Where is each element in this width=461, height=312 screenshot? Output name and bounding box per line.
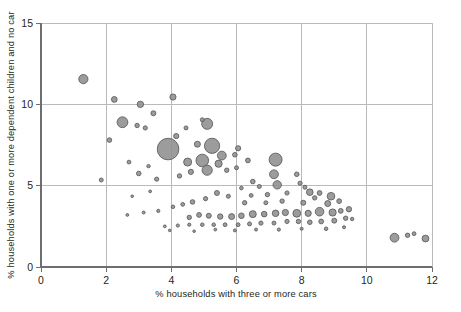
- data-point: [272, 221, 276, 225]
- data-point: [163, 225, 166, 228]
- data-point: [343, 226, 346, 229]
- data-point: [259, 221, 263, 225]
- data-point: [226, 194, 230, 198]
- data-point: [177, 174, 181, 178]
- data-point: [223, 223, 227, 227]
- data-point: [405, 233, 409, 237]
- data-point: [272, 210, 279, 217]
- bubble-chart: 024681012051015 % households with three …: [0, 0, 461, 312]
- data-point: [343, 216, 347, 220]
- x-tick-label: 8: [299, 274, 305, 286]
- data-points: [79, 75, 429, 243]
- data-point: [257, 184, 261, 188]
- data-point: [350, 217, 353, 220]
- data-point: [157, 138, 179, 160]
- data-point: [184, 158, 192, 166]
- data-point: [203, 197, 207, 201]
- data-point: [300, 227, 303, 230]
- data-point: [422, 235, 429, 242]
- data-point: [200, 223, 204, 227]
- data-point: [147, 164, 150, 167]
- x-tick-label: 4: [168, 274, 174, 286]
- data-point: [157, 209, 160, 212]
- data-point: [233, 152, 238, 157]
- data-point: [248, 222, 252, 226]
- data-point: [246, 158, 251, 163]
- data-point: [269, 153, 282, 166]
- tick-marks: [36, 23, 432, 272]
- data-point: [273, 181, 281, 189]
- data-point: [174, 133, 179, 138]
- data-point: [204, 138, 219, 153]
- data-point: [412, 232, 416, 236]
- data-point: [79, 75, 88, 84]
- data-point: [194, 141, 200, 147]
- data-point: [293, 209, 301, 217]
- y-tick-label: 0: [27, 261, 33, 273]
- y-tick-label: 5: [27, 179, 33, 191]
- chart-svg: 024681012051015 % households with three …: [0, 0, 461, 312]
- data-point: [188, 169, 193, 174]
- data-point: [264, 201, 268, 205]
- data-point: [285, 219, 289, 223]
- data-point: [200, 118, 204, 122]
- data-point: [126, 214, 129, 217]
- data-point: [181, 202, 185, 206]
- data-point: [327, 192, 335, 200]
- data-point: [337, 199, 342, 204]
- data-point: [307, 189, 314, 196]
- data-point: [390, 233, 399, 242]
- data-point: [294, 172, 299, 177]
- data-point: [332, 218, 337, 223]
- data-point: [308, 220, 313, 225]
- data-point: [170, 94, 176, 100]
- data-point: [239, 213, 245, 219]
- data-point: [249, 211, 256, 218]
- data-point: [197, 213, 202, 218]
- data-point: [184, 126, 188, 130]
- data-point: [176, 224, 179, 227]
- data-point: [319, 219, 324, 224]
- data-point: [261, 211, 267, 217]
- data-point: [324, 227, 328, 231]
- data-point: [338, 208, 343, 213]
- data-point: [313, 196, 317, 200]
- data-point: [346, 207, 351, 212]
- data-point: [155, 177, 159, 181]
- data-point: [255, 228, 258, 231]
- data-point: [225, 168, 229, 172]
- data-point: [202, 165, 212, 175]
- data-point: [298, 181, 302, 185]
- data-point: [285, 191, 289, 195]
- data-point: [236, 223, 240, 227]
- data-point: [270, 170, 279, 179]
- data-point: [206, 213, 211, 218]
- x-tick-label: 12: [426, 274, 438, 286]
- data-point: [136, 171, 141, 176]
- data-point: [301, 200, 306, 205]
- data-point: [171, 205, 175, 209]
- data-point: [117, 117, 128, 128]
- data-point: [249, 194, 253, 198]
- data-point: [149, 190, 152, 193]
- data-point: [107, 138, 112, 143]
- data-point: [277, 228, 280, 231]
- data-point: [99, 178, 103, 182]
- data-point: [325, 201, 331, 207]
- data-point: [280, 199, 284, 203]
- y-tick-label: 10: [21, 98, 33, 110]
- data-point: [240, 186, 244, 190]
- data-point: [296, 219, 300, 223]
- y-axis-title: % households with one or more dependent …: [6, 11, 16, 278]
- data-point: [265, 192, 269, 196]
- data-point: [212, 223, 216, 227]
- x-tick-label: 6: [234, 274, 240, 286]
- data-point: [317, 191, 322, 196]
- data-point: [214, 228, 217, 231]
- data-point: [315, 207, 324, 216]
- data-point: [131, 195, 134, 198]
- data-point: [235, 166, 239, 170]
- data-point: [142, 211, 145, 214]
- data-point: [111, 97, 117, 103]
- data-point: [233, 229, 236, 232]
